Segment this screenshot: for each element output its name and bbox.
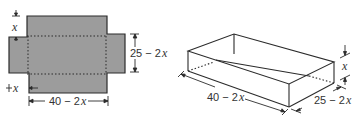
net-sheet	[9, 16, 125, 93]
box-width-label: 25 − 2x	[314, 93, 352, 107]
cut-width-label: x	[12, 81, 19, 95]
flat-net: x 25 − 2x x	[6, 10, 168, 108]
box-top-rim	[188, 34, 334, 84]
cut-height-label: x	[11, 20, 18, 34]
box-length-label: 40 − 2x	[207, 90, 245, 104]
length-label: 40 − 2x	[49, 94, 87, 108]
inner-edge	[216, 60, 309, 76]
box-net-and-open-box-diagram: x 25 − 2x x	[0, 0, 359, 132]
box-height-label: x	[341, 59, 348, 73]
width-label: 25 − 2x	[130, 46, 168, 60]
